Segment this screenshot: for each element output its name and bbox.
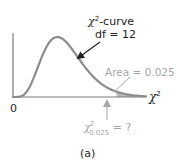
- x-axis-label: χ2: [148, 90, 161, 104]
- critical-value-label: χ20.025 = ?: [83, 120, 131, 137]
- origin-label: 0: [10, 102, 17, 115]
- critical-value-subscript: 0.025: [89, 129, 109, 137]
- area-label: Area = 0.025: [105, 66, 175, 78]
- critical-value-superscript: 2: [90, 120, 94, 128]
- curve-label: χ2-curve: [87, 15, 134, 28]
- curve-pointer-arrow: [78, 42, 100, 58]
- area-leader-line: [114, 77, 130, 92]
- x-axis-label-superscript: 2: [156, 90, 160, 98]
- curve-label-text: -curve: [99, 15, 134, 28]
- figure-caption: (a): [80, 147, 95, 160]
- df-label: df = 12: [95, 28, 136, 41]
- critical-value-suffix: = ?: [109, 121, 131, 134]
- chi-square-diagram: χ2-curve df = 12 Area = 0.025 χ2 0 χ20.0…: [0, 0, 176, 166]
